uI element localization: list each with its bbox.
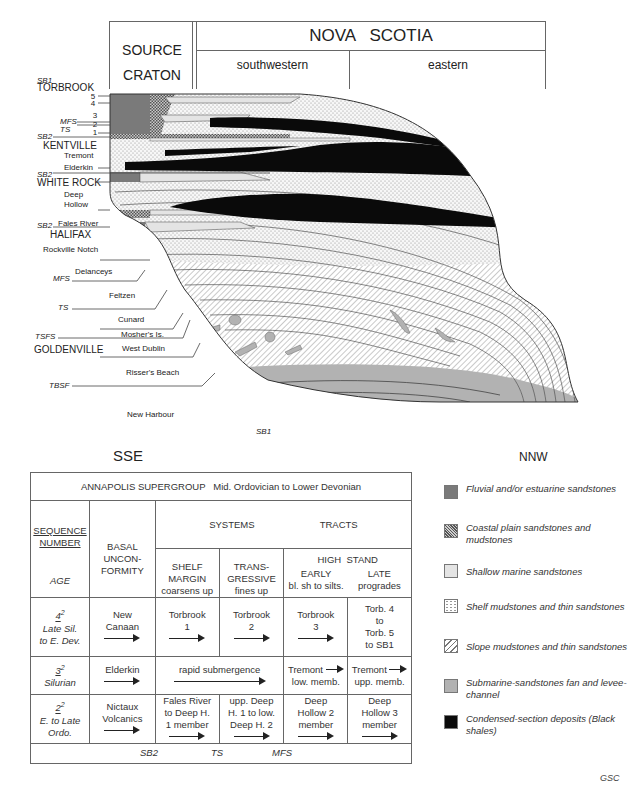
systems-tracts-header: SYSTEMS TRACTS bbox=[155, 501, 411, 549]
subhead-line: EARLY bbox=[284, 568, 347, 580]
cell-line: upp. Deep bbox=[222, 695, 282, 707]
cell-line: Volcanics bbox=[92, 713, 153, 725]
sequence-age-header: SEQUENCE NUMBER AGE bbox=[31, 501, 90, 598]
high-stand-header: HIGH STAND EARLY bl. sh to silts. LATE p… bbox=[284, 549, 412, 598]
age-line: E. to Late bbox=[33, 715, 87, 727]
seq-2-shelf: Fales River to Deep H. 1 member bbox=[155, 695, 219, 744]
sequence-label: SEQUENCE bbox=[33, 525, 87, 537]
condensed-swatch-icon bbox=[444, 715, 458, 729]
seq-4-age-cell: 42 Late Sil. to E. Dev. bbox=[31, 598, 90, 657]
seq-4-trans: Torbrook 2 bbox=[219, 598, 284, 657]
label-goldenville: GOLDENVILLE bbox=[34, 344, 104, 355]
seq-3-age-cell: 32 Silurian bbox=[31, 657, 90, 695]
section-body bbox=[100, 90, 600, 410]
cell-line: Fales River bbox=[158, 695, 217, 707]
cell-line: member bbox=[350, 719, 409, 731]
subhead-line: coarsens up bbox=[158, 585, 217, 597]
cell-line: Deep H. 2 bbox=[222, 719, 282, 731]
label-deep: Deep bbox=[64, 190, 84, 199]
label-ts-lower: TS bbox=[58, 303, 69, 312]
arrow-icon bbox=[104, 634, 140, 642]
transgressive-header: TRANS- GRESSIVE fines up bbox=[219, 549, 284, 598]
arrow-icon bbox=[174, 677, 266, 685]
label-moshers-is: Mosher's Is. bbox=[121, 330, 164, 339]
arrow-icon bbox=[298, 634, 334, 642]
seq-sup: 2 bbox=[61, 664, 65, 671]
label-4: 4 bbox=[91, 99, 96, 108]
label-rockville-notch: Rockville Notch bbox=[43, 245, 98, 254]
seq-3-late: Tremont upp. memb. bbox=[348, 657, 412, 695]
legend-label: Slope mudstones and thin sandstones bbox=[466, 641, 635, 653]
table-title: ANNAPOLIS SUPERGROUP Mid. Ordovician to … bbox=[31, 473, 412, 501]
seq-2-unconformity: Nictaux Volcanics bbox=[89, 695, 155, 744]
seq-2-early: Deep Hollow 2 member bbox=[284, 695, 348, 744]
arrow-icon bbox=[389, 665, 407, 673]
basal-label: BASAL bbox=[92, 541, 153, 553]
age-line: to E. Dev. bbox=[33, 635, 87, 647]
subhead-line: TRANS- bbox=[222, 561, 282, 573]
label-3: 3 bbox=[93, 111, 98, 120]
cell-line: to SB1 bbox=[350, 639, 409, 651]
cell-line: Torb. 5 bbox=[350, 627, 409, 639]
tracts-label: TRACTS bbox=[320, 519, 358, 530]
legend-label: Submarine-sandstones fan and levee-chann… bbox=[466, 677, 635, 701]
label-1: 1 bbox=[93, 128, 98, 137]
label-new-harbour: New Harbour bbox=[127, 410, 174, 419]
cell-line: H. 1 to low. bbox=[222, 707, 282, 719]
seq-4-unconformity: New Canaan bbox=[89, 598, 155, 657]
age-line: Silurian bbox=[33, 677, 87, 689]
label-white-rock: WHITE ROCK bbox=[37, 177, 101, 188]
shelf-swatch-icon bbox=[444, 599, 458, 613]
subhead-line: SHELF bbox=[158, 561, 217, 573]
label-mfs-halifax: MFS bbox=[53, 274, 71, 283]
seq-sup: 2 bbox=[61, 609, 65, 616]
sequence-table: ANNAPOLIS SUPERGROUP Mid. Ordovician to … bbox=[30, 472, 412, 764]
cell-line: Nictaux bbox=[92, 701, 153, 713]
cell-line: rapid submergence bbox=[158, 664, 282, 676]
seq-2-age-cell: 22 E. to Late Ordo. bbox=[31, 695, 90, 744]
label-fales-river: Fales River bbox=[58, 219, 99, 228]
subhead-line: MARGIN bbox=[158, 573, 217, 585]
subhead-line: bl. sh to silts. bbox=[284, 580, 347, 592]
arrow-icon bbox=[234, 732, 270, 740]
arrow-icon bbox=[326, 665, 344, 673]
coastal-swatch-icon bbox=[444, 524, 458, 538]
subhead-line: GRESSIVE bbox=[222, 573, 282, 585]
late-header: LATE progrades bbox=[348, 568, 411, 592]
label-delanceys: Delanceys bbox=[75, 267, 112, 276]
legend-label: Coastal plain sandstones and mudstones bbox=[466, 522, 635, 546]
label-torbrook: TORBROOK bbox=[37, 82, 94, 93]
cell-line: Torbrook bbox=[158, 609, 217, 621]
label-elderkin: Elderkin bbox=[64, 163, 93, 172]
basal-unconformity-header: BASAL UNCON- FORMITY bbox=[89, 501, 155, 598]
cell-line: Elderkin bbox=[92, 664, 153, 676]
table-row-sequence-4: 42 Late Sil. to E. Dev. New Canaan Torbr… bbox=[31, 598, 412, 657]
seq-4-shelf: Torbrook 1 bbox=[155, 598, 219, 657]
systems-label: SYSTEMS bbox=[209, 519, 254, 530]
direction-nnw: NNW bbox=[519, 450, 548, 464]
label-feltzen: Feltzen bbox=[109, 291, 135, 300]
cell-line: Torb. 4 bbox=[350, 603, 409, 615]
cross-section-diagram: SB1 TORBROOK 5 4 3 MFS 2 TS 1 SB2 KENTVI… bbox=[0, 0, 635, 470]
table-row-sequence-2: 22 E. to Late Ordo. Nictaux Volcanics Fa… bbox=[31, 695, 412, 744]
arrow-icon bbox=[298, 732, 334, 740]
cell-line: Deep bbox=[286, 695, 345, 707]
table-row-boundaries: SB2 TS MFS bbox=[31, 744, 412, 764]
slope-swatch-icon bbox=[444, 639, 458, 653]
label-west-dublin: West Dublin bbox=[122, 344, 165, 353]
subhead-line: progrades bbox=[348, 580, 411, 592]
boundary-mfs: MFS bbox=[272, 747, 292, 759]
label-rissers-beach: Risser's Beach bbox=[126, 368, 179, 377]
early-header: EARLY bl. sh to silts. bbox=[284, 568, 347, 592]
arrow-icon bbox=[362, 732, 398, 740]
label-halifax: HALIFAX bbox=[50, 229, 91, 240]
seq-sup: 2 bbox=[61, 701, 65, 708]
uncon-label: UNCON- bbox=[92, 553, 153, 565]
seq-2-late: Deep Hollow 3 member bbox=[348, 695, 412, 744]
cell-line: Tremont bbox=[352, 664, 387, 675]
cell-line: Hollow 3 bbox=[350, 707, 409, 719]
legend-label: Condensed-section deposits (Black shales… bbox=[466, 713, 635, 737]
arrow-icon bbox=[234, 634, 270, 642]
label-sb1-bottom: SB1 bbox=[256, 427, 271, 436]
arrow-icon bbox=[104, 677, 140, 685]
